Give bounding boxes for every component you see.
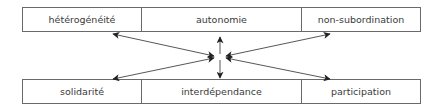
arrow-heterogeneite <box>113 34 214 56</box>
arrow-participation <box>226 58 330 79</box>
arrow-non-subordination <box>226 34 330 56</box>
arrows-layer <box>0 0 442 111</box>
arrow-solidarite <box>113 58 214 79</box>
